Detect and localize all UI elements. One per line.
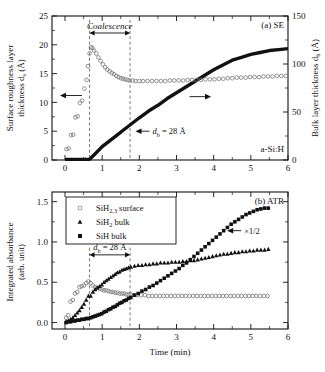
data-point-filled-square [203, 245, 207, 249]
panel-a-ytick-label-right: 150 [292, 11, 306, 21]
panel-a-ylabel-left-line2: thickness ds (Å) [16, 59, 27, 116]
panel-b-ytick-label: 0.0 [37, 318, 49, 328]
panel-b-ytick-label: 1.5 [37, 197, 49, 207]
data-point-filled-square [267, 206, 271, 210]
data-point-filled-square [188, 258, 192, 262]
data-point-filled-square [170, 272, 174, 276]
panel-b-ylabel-line1: Integrated absorbance [5, 222, 15, 301]
data-point-filled-square [255, 208, 259, 212]
data-point-filled-square [133, 293, 137, 297]
data-point-filled-square [226, 226, 230, 230]
data-point-filled-square [174, 269, 178, 273]
panel-a-ytick-label-left: 0 [44, 155, 49, 165]
data-point-filled-square [218, 232, 222, 236]
panel-b-label: (b) ATR [255, 196, 284, 206]
panel-a-xtick-label: 4 [211, 163, 216, 173]
data-point-filled-square [177, 267, 181, 271]
data-point-filled-square [233, 220, 237, 224]
data-point-filled-square [159, 279, 163, 283]
data-point-filled-square [237, 218, 241, 222]
legend-item-label: SiH2,3 surface [96, 203, 144, 214]
data-point-filled-square [244, 213, 248, 217]
panel-a-ytick-label-right: 100 [292, 59, 306, 69]
panel-a-xtick-label: 0 [63, 163, 68, 173]
legend-item-label: SiH2 bulk [96, 217, 130, 228]
panel-b-ylabel-line2: (arb. unit) [16, 244, 26, 280]
panel-a-ylabel-right-text: Bulk layer thickness db (Å) [310, 39, 321, 137]
data-point-filled-square [211, 239, 215, 243]
data-point-filled-square [162, 276, 166, 280]
panel-a-label: (a) SE [261, 20, 284, 30]
panel-a-ylabel-left-line1: Surface roughness layer [5, 45, 15, 131]
data-point-filled-square [240, 215, 244, 219]
data-point-filled-square [222, 229, 226, 233]
panel-b-xtick-label: 1 [100, 332, 105, 342]
panel-a-xtick-label: 1 [100, 163, 105, 173]
data-point-filled-square [140, 289, 144, 293]
panel-a-ylabel-right: Bulk layer thickness db (Å) [310, 39, 321, 137]
panel-a-ytick-label-right: 50 [292, 107, 302, 117]
data-point-filled-square [155, 281, 159, 285]
panel-b-xtick-label: 0 [63, 332, 68, 342]
panel-a-xtick-label: 2 [137, 163, 142, 173]
panel-b-ytick-label: 1.0 [37, 237, 49, 247]
panel-a-ytick-label-left: 5 [44, 126, 49, 136]
data-point-filled-square [151, 284, 155, 288]
panel-a-xtick-label: 5 [249, 163, 254, 173]
panel-b-half-scale-annotation: ×1/2 [244, 226, 260, 236]
panel-b-xtick-label: 4 [211, 332, 216, 342]
panel-b-xtick-label: 3 [174, 332, 179, 342]
panel-a-material-label: a-Si:H [261, 144, 285, 154]
panel-a-ytick-label-left: 15 [39, 69, 49, 79]
panel-a-xtick-label: 6 [286, 163, 291, 173]
data-point-filled-square [207, 242, 211, 246]
panel-b-ytick-label: 0.5 [37, 277, 49, 287]
legend-item-label: SiH bulk [96, 231, 127, 241]
panel-a-xtick-label: 3 [174, 163, 179, 173]
data-point-filled-square [192, 255, 196, 259]
data-point-filled-square [166, 274, 170, 278]
data-point-filled-square [229, 222, 233, 226]
data-point-filled-square [129, 296, 133, 300]
data-point-filled-square [144, 288, 148, 292]
data-point-filled-square [181, 264, 185, 268]
panel-a-ytick-label-left: 10 [39, 98, 49, 108]
data-point-filled-square [196, 251, 200, 255]
background [0, 0, 325, 372]
panel-a-ytick-label-left: 25 [39, 11, 49, 21]
panel-b-xtick-label: 2 [137, 332, 142, 342]
coalescence-label: Coalescence [87, 21, 132, 31]
data-point-filled-square [252, 210, 256, 214]
data-point-filled-square [259, 207, 263, 211]
data-point-filled-square [185, 261, 189, 265]
figure-container: 0510152025050100150Surface roughness lay… [0, 0, 325, 372]
data-point-filled-square [148, 285, 152, 289]
panel-a-ytick-label-left: 20 [39, 40, 49, 50]
legend-marker-filled-square [78, 234, 82, 238]
data-point-filled-square [248, 211, 252, 215]
panel-b-xtick-label: 5 [249, 332, 254, 342]
panel-b-xtick-label: 6 [286, 332, 291, 342]
data-point-filled-square [136, 292, 140, 296]
data-point-filled-square [214, 235, 218, 239]
figure-svg: 0510152025050100150Surface roughness lay… [0, 0, 325, 372]
x-axis-label: Time (min) [150, 347, 191, 357]
data-point-filled-square [263, 206, 267, 210]
panel-a-ytick-label-right: 0 [292, 155, 297, 165]
data-point-filled-square [200, 248, 204, 252]
